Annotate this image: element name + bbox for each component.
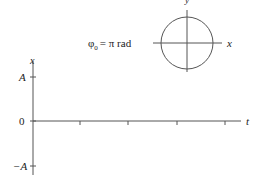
phasor-x-label: x xyxy=(226,37,232,49)
diagram-canvas: x y φ0= π rad x A 0 −A t xyxy=(0,0,263,193)
label-zero: 0 xyxy=(19,115,25,127)
phase-label: φ0= π rad xyxy=(88,37,132,52)
phasor-diagram: x y φ0= π rad xyxy=(88,0,232,72)
label-A: A xyxy=(18,71,26,83)
xt-graph: x A 0 −A t xyxy=(13,55,250,175)
label-minus-A: −A xyxy=(13,160,27,172)
phasor-y-label: y xyxy=(184,0,189,5)
graph-x-label: x xyxy=(29,55,35,66)
graph-t-label: t xyxy=(246,115,250,127)
